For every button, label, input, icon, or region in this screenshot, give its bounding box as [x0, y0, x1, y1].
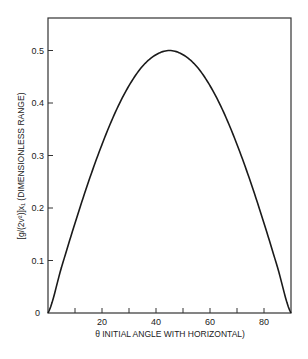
x-axis-label: θ INITIAL ANGLE WITH HORIZONTAL): [95, 329, 245, 339]
range-curve: [48, 51, 291, 314]
range-chart: 0 0.1 0.2 0.3 0.4 0.5 20 40 60 80 θ INIT…: [0, 0, 308, 359]
y-tick-0.4: 0.4: [31, 98, 44, 108]
x-tick-20: 20: [97, 317, 107, 327]
x-axis-ticks: [75, 308, 264, 313]
y-tick-0: 0: [35, 308, 40, 318]
y-tick-0.5: 0.5: [31, 46, 44, 56]
x-tick-40: 40: [151, 317, 161, 327]
y-tick-0.1: 0.1: [31, 256, 44, 266]
y-axis-label: [g/(2v²)]x₁ (DIMENSIONLESS RANGE): [16, 92, 26, 239]
x-tick-60: 60: [205, 317, 215, 327]
plot-frame: [48, 18, 291, 313]
y-tick-0.3: 0.3: [31, 151, 44, 161]
y-axis-ticks: [48, 51, 53, 261]
y-axis-tick-labels: 0 0.1 0.2 0.3 0.4 0.5: [31, 46, 44, 319]
y-tick-0.2: 0.2: [31, 203, 44, 213]
x-axis-tick-labels: 20 40 60 80: [97, 317, 269, 327]
x-tick-80: 80: [259, 317, 269, 327]
